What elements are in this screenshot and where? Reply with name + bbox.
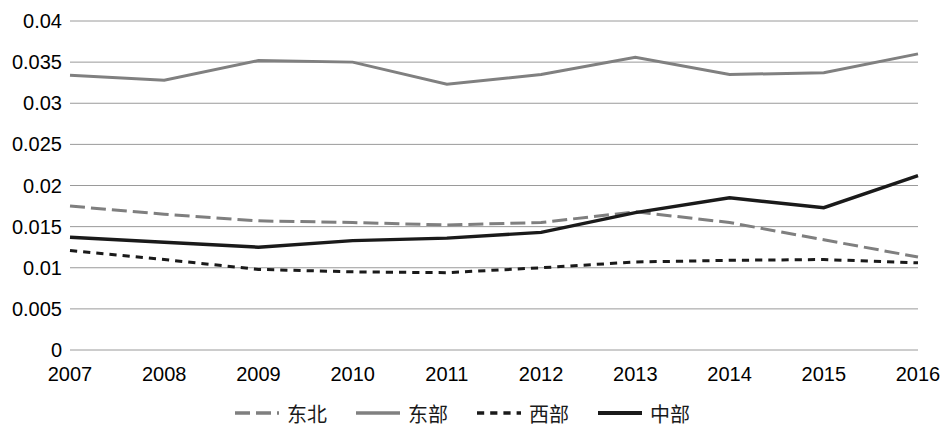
y-axis-tick-label: 0.01 bbox=[23, 256, 62, 279]
y-axis-tick-label: 0.02 bbox=[23, 174, 62, 197]
x-axis-tick-label: 2008 bbox=[142, 363, 187, 386]
series-line-0 bbox=[70, 206, 918, 257]
y-axis-tick-label: 0.025 bbox=[12, 133, 62, 156]
x-axis-tick-label: 2007 bbox=[48, 363, 93, 386]
legend-label: 东北 bbox=[287, 399, 327, 428]
legend-item-东部[interactable]: 东部 bbox=[355, 399, 448, 428]
y-axis-tick-label: 0.005 bbox=[12, 297, 62, 320]
legend-swatch-icon bbox=[234, 406, 280, 420]
series-line-1 bbox=[70, 54, 918, 84]
legend-swatch-icon bbox=[597, 406, 643, 420]
series-line-2 bbox=[70, 250, 918, 272]
legend-item-东北[interactable]: 东北 bbox=[234, 399, 327, 428]
y-axis-tick-label: 0.04 bbox=[23, 10, 62, 33]
x-axis-tick-label: 2013 bbox=[613, 363, 658, 386]
legend-label: 东部 bbox=[408, 399, 448, 428]
y-axis-tick-label: 0.03 bbox=[23, 92, 62, 115]
series-line-3 bbox=[70, 176, 918, 248]
x-axis-tick-label: 2015 bbox=[802, 363, 847, 386]
y-axis-tick-label: 0.015 bbox=[12, 215, 62, 238]
legend-item-西部[interactable]: 西部 bbox=[476, 399, 569, 428]
legend-label: 西部 bbox=[529, 399, 569, 428]
legend-swatch-icon bbox=[355, 406, 401, 420]
x-axis-tick-label: 2011 bbox=[425, 363, 468, 386]
y-axis: 00.0050.010.0150.020.0250.030.0350.04 bbox=[0, 0, 70, 360]
x-axis-tick-label: 2010 bbox=[330, 363, 375, 386]
x-axis-tick-label: 2012 bbox=[519, 363, 564, 386]
legend-label: 中部 bbox=[650, 399, 690, 428]
chart-legend: 东北东部西部中部 bbox=[0, 396, 924, 430]
x-axis-tick-label: 2009 bbox=[236, 363, 281, 386]
y-axis-tick-label: 0.035 bbox=[12, 51, 62, 74]
x-axis-tick-label: 2016 bbox=[896, 363, 940, 386]
x-axis-tick-label: 2014 bbox=[707, 363, 752, 386]
legend-item-中部[interactable]: 中部 bbox=[597, 399, 690, 428]
legend-swatch-icon bbox=[476, 406, 522, 420]
x-axis: 2007200820092010201120122013201420152016 bbox=[0, 355, 924, 389]
